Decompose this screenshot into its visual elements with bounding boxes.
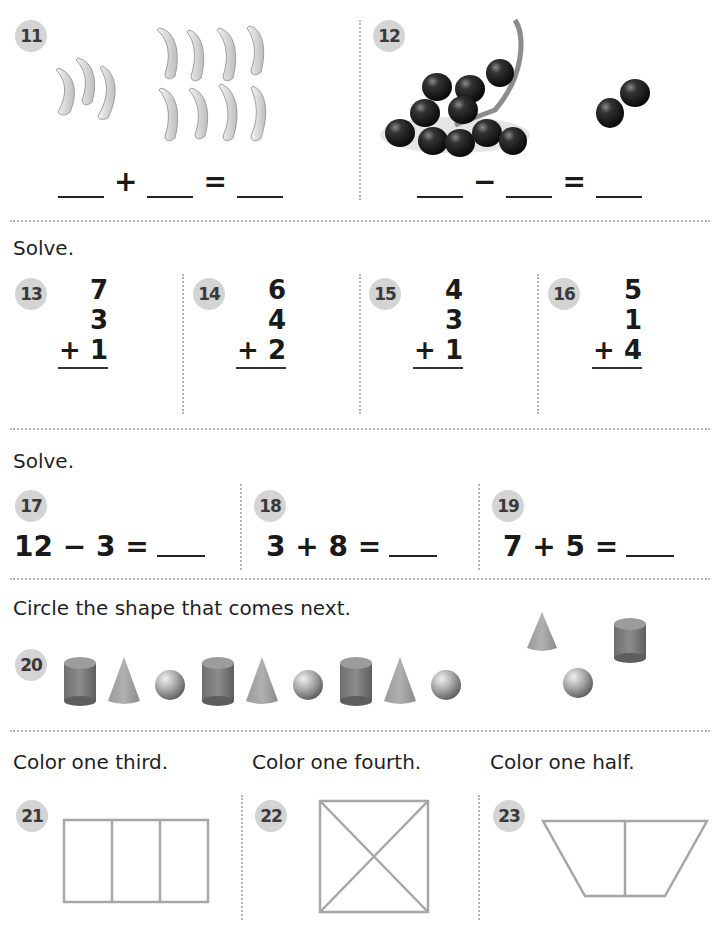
cylinder-icon <box>64 657 96 706</box>
divider-vertical <box>478 795 480 920</box>
divider-horizontal <box>10 220 710 222</box>
cone-icon <box>108 657 140 704</box>
divider-vertical <box>478 484 480 570</box>
addend: 4 <box>413 275 463 305</box>
cone-icon <box>246 657 278 704</box>
bananas-group-right <box>155 22 280 147</box>
separate-grapes-image <box>590 75 665 135</box>
addend: + 2 <box>236 335 286 365</box>
divider-horizontal <box>10 428 710 430</box>
grape-bunch-image <box>375 15 555 160</box>
equation-18: 3 + 8 = <box>266 530 437 563</box>
divider-vertical <box>182 274 184 414</box>
instruction-solve: Solve. <box>13 236 74 260</box>
answer-line[interactable] <box>592 367 642 369</box>
cylinder-icon <box>340 657 372 706</box>
sphere-icon <box>293 670 323 700</box>
vertical-addition-16: 5 1 + 4 <box>592 275 642 369</box>
addend: + 1 <box>413 335 463 365</box>
addend: 1 <box>592 305 642 335</box>
answer-blank[interactable] <box>389 555 437 557</box>
instruction-half: Color one half. <box>490 750 635 774</box>
problem-number-badge: 16 <box>548 278 580 310</box>
fourths-square[interactable] <box>318 799 430 914</box>
addend: 4 <box>236 305 286 335</box>
answer-blank[interactable] <box>58 196 104 198</box>
choice-sphere[interactable] <box>560 665 596 701</box>
problem-number-badge: 23 <box>493 800 525 832</box>
vertical-addition-14: 6 4 + 2 <box>236 275 286 369</box>
expression: 12 − 3 = <box>14 530 149 563</box>
equation-19: 7 + 5 = <box>503 530 674 563</box>
addend: 3 <box>58 305 108 335</box>
equation-12: − = <box>417 165 642 198</box>
divider-vertical <box>359 20 361 200</box>
instruction-circle-next: Circle the shape that comes next. <box>13 596 351 620</box>
plus-sign: + <box>114 165 137 198</box>
answer-blank[interactable] <box>417 196 463 198</box>
problem-number-badge: 21 <box>16 800 48 832</box>
vertical-addition-13: 7 3 + 1 <box>58 275 108 369</box>
instruction-third: Color one third. <box>13 750 168 774</box>
problem-number-badge: 13 <box>15 278 47 310</box>
cone-icon <box>384 657 416 704</box>
problem-number-badge: 18 <box>254 490 286 522</box>
answer-line[interactable] <box>236 367 286 369</box>
answer-blank[interactable] <box>626 555 674 557</box>
problem-number-badge: 14 <box>193 278 225 310</box>
answer-blank[interactable] <box>237 196 283 198</box>
addend: 3 <box>413 305 463 335</box>
divider-horizontal <box>10 730 710 732</box>
sphere-icon <box>431 670 461 700</box>
problem-number-badge: 20 <box>15 649 47 681</box>
cylinder-icon <box>202 657 234 706</box>
equals-sign: = <box>562 165 585 198</box>
vertical-addition-15: 4 3 + 1 <box>413 275 463 369</box>
addend: 6 <box>236 275 286 305</box>
equation-17: 12 − 3 = <box>14 530 205 563</box>
addend: + 4 <box>592 335 642 365</box>
answer-blank[interactable] <box>506 196 552 198</box>
problem-number-badge: 17 <box>15 490 47 522</box>
problem-number-badge: 19 <box>492 490 524 522</box>
equals-sign: = <box>203 165 226 198</box>
bananas-group-left <box>50 50 135 125</box>
addend: + 1 <box>58 335 108 365</box>
divider-vertical <box>240 484 242 570</box>
halves-trapezoid[interactable] <box>540 818 710 898</box>
shape-pattern <box>60 655 470 710</box>
instruction-fourth: Color one fourth. <box>252 750 421 774</box>
choice-cone[interactable] <box>524 610 560 655</box>
answer-blank[interactable] <box>147 196 193 198</box>
divider-vertical <box>241 795 243 920</box>
addend: 7 <box>58 275 108 305</box>
answer-line[interactable] <box>58 367 108 369</box>
divider-vertical <box>537 274 539 414</box>
instruction-solve: Solve. <box>13 449 74 473</box>
addend: 5 <box>592 275 642 305</box>
answer-blank[interactable] <box>596 196 642 198</box>
problem-number-badge: 15 <box>369 278 401 310</box>
problem-number-badge: 22 <box>255 800 287 832</box>
thirds-rectangle[interactable] <box>62 818 210 904</box>
expression: 3 + 8 = <box>266 530 381 563</box>
equation-11: + = <box>58 165 283 198</box>
choice-cylinder[interactable] <box>612 616 648 666</box>
answer-line[interactable] <box>413 367 463 369</box>
sphere-icon <box>155 670 185 700</box>
problem-number-badge: 11 <box>15 20 47 52</box>
minus-sign: − <box>473 165 496 198</box>
divider-horizontal <box>10 578 710 580</box>
divider-vertical <box>359 274 361 414</box>
expression: 7 + 5 = <box>503 530 618 563</box>
answer-blank[interactable] <box>157 555 205 557</box>
